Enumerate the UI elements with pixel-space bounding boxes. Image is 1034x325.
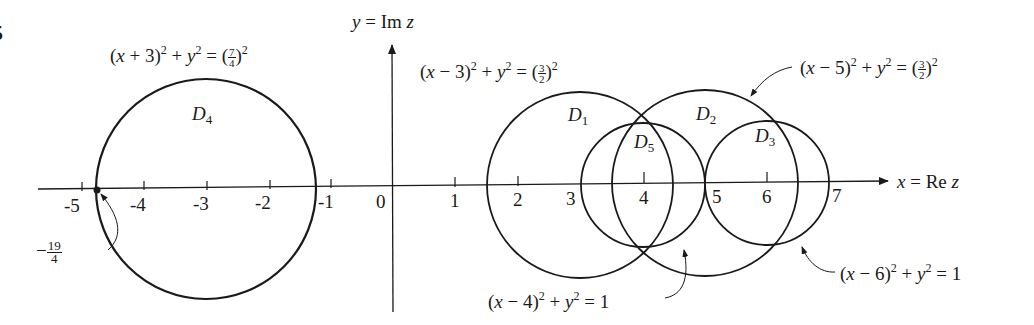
region-label-d4: D4 xyxy=(192,104,212,123)
tick-label: -5 xyxy=(64,196,80,215)
tick-label: -3 xyxy=(193,194,209,213)
tick-label: 1 xyxy=(450,191,460,210)
leader-d3 xyxy=(802,247,835,272)
tick-label: 7 xyxy=(832,186,842,205)
region-label-d2: D2 xyxy=(696,104,716,123)
region-label-d3: D3 xyxy=(755,126,775,145)
tick-label: -2 xyxy=(255,193,271,212)
region-label-d5: D5 xyxy=(634,132,654,151)
point-label: −194 xyxy=(36,240,62,265)
y-axis-label: y = Im z xyxy=(352,12,414,31)
tick-label: 6 xyxy=(762,187,772,206)
y-axis xyxy=(392,45,393,312)
tick-label: -4 xyxy=(130,195,146,214)
equation-d3: (x − 6)2 + y2 = 1 xyxy=(840,264,961,283)
problem-number: 5 xyxy=(0,22,3,44)
tick-label: 2 xyxy=(513,190,523,209)
x-axis-label: x = Re z xyxy=(897,172,959,191)
equation-d2: (x − 5)2 + y2 = (32)2 xyxy=(800,58,938,80)
point-marker xyxy=(94,187,101,194)
equation-d4: (x + 3)2 + y2 = (74)2 xyxy=(110,46,248,68)
tick-label: 3 xyxy=(566,189,576,208)
leader-d2 xyxy=(751,67,792,96)
tick-label: -1 xyxy=(318,192,334,211)
tick-label: 0 xyxy=(376,192,386,211)
tick-label: 5 xyxy=(712,187,722,206)
equation-d1: (x − 3)2 + y2 = (32)2 xyxy=(420,62,558,84)
region-label-d1: D1 xyxy=(568,105,588,124)
equation-d5: (x − 4)2 + y2 = 1 xyxy=(488,292,609,311)
tick-label: 4 xyxy=(639,188,649,207)
x-axis xyxy=(38,181,888,189)
